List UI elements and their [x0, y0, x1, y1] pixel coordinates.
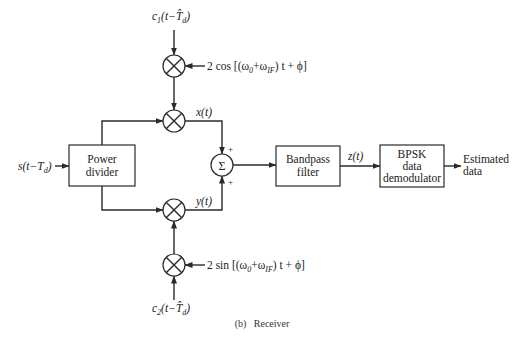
plus-top: + — [228, 144, 233, 154]
y-mixer — [163, 199, 185, 221]
output-label: Estimated data — [463, 153, 509, 177]
top-code-label: c1(t−T̂d) — [152, 9, 190, 25]
svg-text:Σ: Σ — [219, 159, 226, 173]
lower-branch-line — [102, 186, 163, 210]
svg-text:BPSK: BPSK — [398, 148, 427, 160]
svg-text:Bandpass: Bandpass — [286, 153, 331, 166]
x-signal-label: x(t) — [195, 106, 212, 119]
svg-text:Power: Power — [87, 153, 117, 165]
cos-reference-label: 2 cos [(ω0+ωIF) t + ϕ] — [207, 60, 307, 75]
summer: Σ — [211, 154, 233, 176]
svg-text:data: data — [402, 160, 421, 172]
svg-text:divider: divider — [86, 166, 119, 178]
x-mixer — [163, 110, 185, 132]
sin-reference-label: 2 sin [(ω0+ωIF) t + ϕ] — [207, 259, 305, 274]
top-mixer — [163, 55, 185, 77]
figure-caption: (b) Receiver — [235, 318, 290, 330]
svg-text:demodulator: demodulator — [383, 172, 441, 184]
upper-branch-line — [102, 121, 163, 145]
bottom-code-label: c2(t−T̂d) — [152, 301, 190, 317]
bandpass-filter-block: Bandpass filter — [276, 146, 340, 186]
svg-text:filter: filter — [297, 166, 320, 178]
svg-text:c2(t−T̂d): c2(t−T̂d) — [152, 301, 190, 317]
plus-bottom: + — [228, 177, 233, 187]
z-signal-label: z(t) — [347, 150, 364, 163]
x-to-sum-line — [185, 121, 222, 154]
y-signal-label: y(t) — [195, 195, 212, 208]
svg-text:Estimated: Estimated — [463, 153, 509, 165]
input-signal: s(t−Td) — [18, 160, 69, 175]
receiver-block-diagram: s(t−Td) Power divider c1(t−T̂d) 2 cos [(… — [0, 0, 524, 343]
bpsk-demodulator-block: BPSK data demodulator — [380, 145, 444, 187]
svg-text:c1(t−T̂d): c1(t−T̂d) — [152, 9, 190, 25]
svg-text:data: data — [463, 165, 482, 177]
power-divider-block: Power divider — [69, 145, 135, 186]
svg-text:s(t−Td): s(t−Td) — [18, 160, 52, 175]
bottom-mixer — [163, 254, 185, 276]
